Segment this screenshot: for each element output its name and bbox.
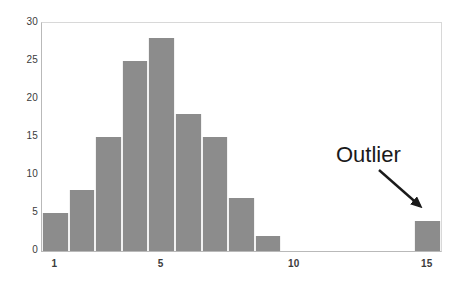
y-tick-label: 15 (12, 131, 38, 141)
x-tick-label: 5 (146, 258, 176, 269)
x-tick-label: 10 (279, 258, 309, 269)
y-tick-label: 5 (12, 207, 38, 217)
x-tick-label: 1 (39, 258, 69, 269)
outlier-annotation-arrow (372, 164, 434, 218)
x-axis: 151015 (0, 258, 459, 274)
outlier-bar (414, 221, 441, 251)
histogram-bar (202, 137, 229, 251)
histogram-bar (255, 236, 282, 251)
histogram-bar (95, 137, 122, 251)
histogram-bar (69, 190, 96, 251)
y-tick-label: 25 (12, 55, 38, 65)
y-axis: 051015202530 (8, 0, 38, 281)
histogram-bar (122, 61, 149, 251)
x-tick-label: 15 (412, 258, 442, 269)
histogram-bar (228, 198, 255, 251)
histogram-bar (42, 213, 69, 251)
y-tick-label: 10 (12, 169, 38, 179)
y-tick-label: 30 (12, 17, 38, 27)
y-tick-label: 0 (12, 245, 38, 255)
histogram-figure: 051015202530 151015 Outlier (0, 0, 459, 281)
histogram-bar (175, 114, 202, 251)
y-tick-label: 20 (12, 93, 38, 103)
histogram-bar (148, 38, 175, 251)
